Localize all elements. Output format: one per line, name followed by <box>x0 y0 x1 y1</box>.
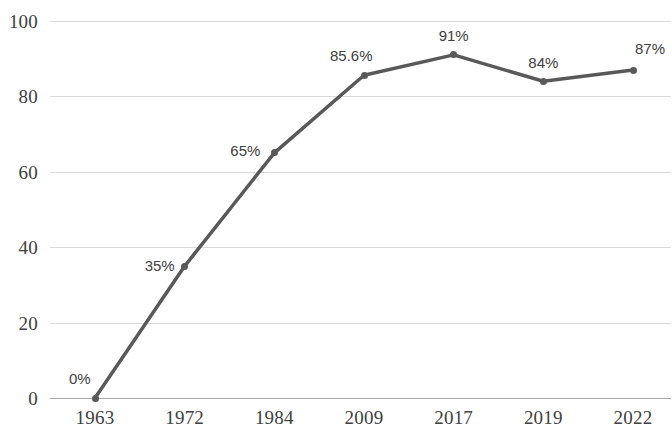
data-point-label: 87% <box>635 41 665 56</box>
x-axis-tick-label: 2017 <box>409 408 499 425</box>
data-point-label: 85.6% <box>330 48 373 63</box>
line-chart: 020406080100 0%35%65%85.6%91%84%87% 1963… <box>0 0 672 425</box>
data-point-label: 35% <box>145 258 175 273</box>
x-axis-tick-label: 2022 <box>588 408 672 425</box>
data-point-marker[interactable] <box>361 72 368 79</box>
data-point-label: 65% <box>230 143 260 158</box>
x-axis-tick-label: 1984 <box>229 408 319 425</box>
data-point-marker[interactable] <box>630 67 637 74</box>
series-polyline <box>95 55 633 398</box>
x-axis-tick-label: 2019 <box>498 408 588 425</box>
x-axis-tick-label: 2009 <box>319 408 409 425</box>
data-point-marker[interactable] <box>181 263 188 270</box>
data-point-marker[interactable] <box>92 395 99 402</box>
x-axis-tick-label: 1972 <box>140 408 230 425</box>
data-point-label: 0% <box>69 371 91 386</box>
data-point-label: 84% <box>528 55 558 70</box>
data-point-marker[interactable] <box>540 78 547 85</box>
data-point-label: 91% <box>439 28 469 43</box>
x-axis-tick-label: 1963 <box>50 408 140 425</box>
